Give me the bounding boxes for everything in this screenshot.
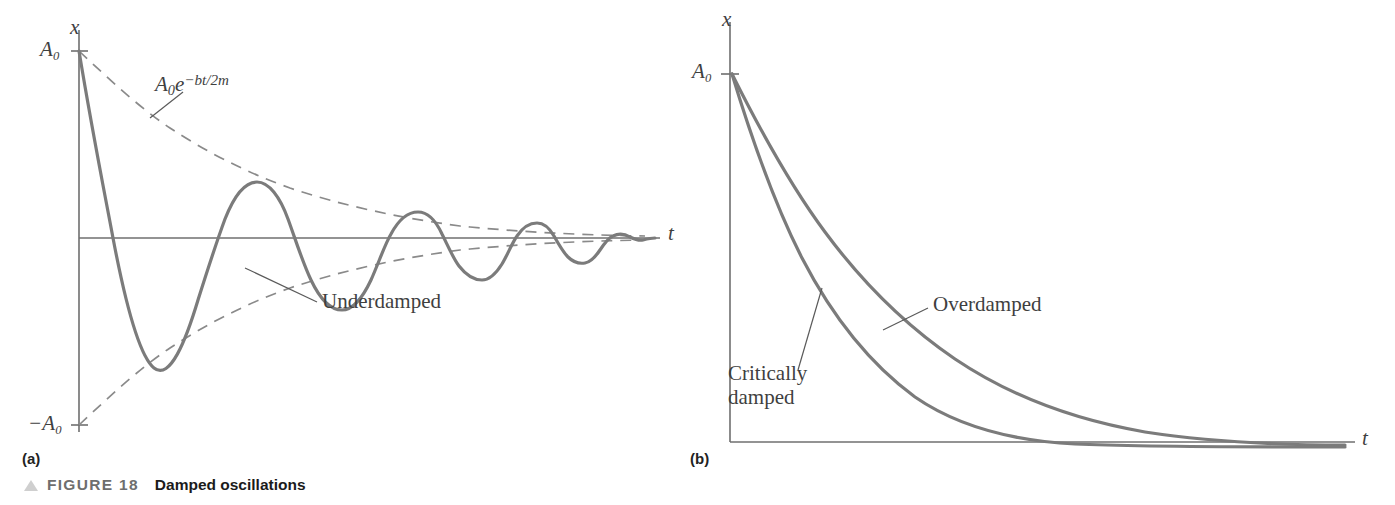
panel-b-critically-damped-leader	[798, 288, 822, 370]
panel-a-x-axis-label: t	[668, 222, 674, 246]
formula-base: e	[175, 72, 184, 96]
panel-b-tick-label-a0: A₀	[692, 60, 712, 84]
panel-b-tag: (b)	[690, 450, 709, 467]
panel-a-tick-label-a0-positive: A₀	[40, 38, 60, 62]
formula-amplitude: A	[155, 72, 168, 96]
panel-a-underdamped-curve	[79, 51, 655, 370]
panel-a-y-axis-label: x	[70, 16, 79, 40]
formula-amplitude-subscript: 0	[168, 82, 175, 98]
panel-b-critically-damped-curve	[732, 74, 1345, 447]
critically-damped-line-2: damped	[728, 386, 807, 410]
formula-exponent: −bt/2m	[184, 72, 229, 88]
panel-b-overdamped-label: Overdamped	[933, 293, 1041, 317]
panel-b-critically-damped-label: Critically damped	[728, 362, 807, 409]
figure-caption: FIGURE 18 Damped oscillations	[24, 476, 306, 494]
panel-b-overdamped-curve	[732, 74, 1345, 445]
panel-a-envelope-formula: A0e−bt/2m	[155, 72, 229, 98]
panel-b-overdamped: x t A₀ Overdamped Critically damped (b)	[690, 0, 1395, 470]
panel-b-y-axis-label: x	[722, 8, 731, 32]
panel-a-plot	[0, 0, 700, 470]
panel-a-underdamped-label: Underdamped	[322, 290, 441, 314]
panel-a-tick-label-a0-negative: −A₀	[28, 412, 62, 436]
figure-title: Damped oscillations	[155, 476, 306, 494]
panel-a-underdamped: x t A₀ −A₀ A0e−bt/2m Underdamped (a)	[0, 0, 700, 470]
figure-number-label: FIGURE 18	[47, 476, 139, 494]
critically-damped-line-1: Critically	[728, 362, 807, 386]
panel-a-lower-envelope	[79, 240, 645, 425]
panel-a-tag: (a)	[22, 450, 40, 467]
figure-damped-oscillations: x t A₀ −A₀ A0e−bt/2m Underdamped (a)	[0, 0, 1395, 505]
triangle-up-icon	[24, 480, 38, 491]
panel-b-x-axis-label: t	[1362, 427, 1368, 451]
panel-b-overdamped-leader	[883, 308, 928, 330]
